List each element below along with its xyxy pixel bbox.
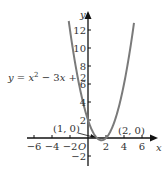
y-axis-label: y	[79, 9, 86, 20]
x-axis-arrow-icon	[150, 135, 158, 142]
x-axis-label: x	[156, 142, 162, 153]
x-tick-label: 4	[121, 141, 127, 152]
origin-label: O	[78, 141, 86, 152]
x-tick-label: −4	[45, 141, 60, 152]
y-tick-label: −2	[71, 151, 86, 162]
x-tick-label: 2	[103, 141, 109, 152]
parabola-chart: −6−4−2246−224681012xyOy = x2 − 3x + 2(1,…	[0, 0, 167, 172]
equation-label: y = x2 − 3x + 2	[7, 71, 86, 83]
y-tick-label: 4	[80, 97, 86, 108]
x-tick-label: 6	[139, 141, 145, 152]
point-label-2-0: (2, 0)	[118, 125, 145, 136]
y-tick-label: 10	[73, 43, 86, 54]
y-tick-label: 8	[80, 61, 86, 72]
x-tick-label: −6	[27, 141, 42, 152]
y-tick-label: 12	[73, 25, 86, 36]
y-tick-label: 2	[80, 115, 86, 126]
point-label-1-0: (1, 0)	[53, 123, 80, 134]
